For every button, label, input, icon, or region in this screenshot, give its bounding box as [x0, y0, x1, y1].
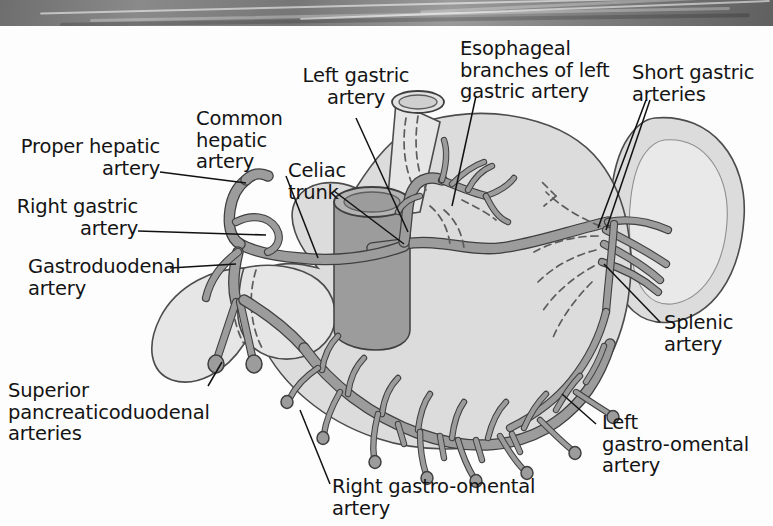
label-right-gastric-artery: Right gastric artery: [10, 196, 138, 239]
label-left-gastric-artery: Left gastric artery: [294, 65, 418, 108]
label-esophageal-branches: Esophageal branches of left gastric arte…: [460, 38, 626, 103]
label-splenic-artery: Splenic artery: [664, 312, 773, 355]
leader-proper-hepatic: [160, 172, 246, 183]
label-superior-pancreaticoduodenal-arteries: Superior pancreaticoduodenal arteries: [8, 380, 238, 445]
leader-right-gastric: [138, 231, 266, 235]
figure-canvas: .organ { fill:#dcdcdc; stroke:#4c4c4c; s…: [0, 0, 773, 526]
label-proper-hepatic-artery: Proper hepatic artery: [10, 136, 160, 179]
label-celiac-trunk: Celiac trunk: [288, 160, 368, 203]
label-right-gastro-omental-artery: Right gastro-omental artery: [332, 476, 592, 519]
label-left-gastro-omental-artery: Left gastro-omental artery: [602, 412, 752, 477]
label-gastroduodenal-artery: Gastroduodenal artery: [28, 256, 188, 299]
label-short-gastric-arteries: Short gastric arteries: [632, 62, 766, 105]
